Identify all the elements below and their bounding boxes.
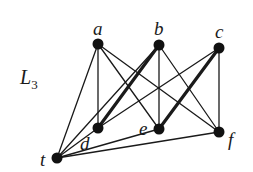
node-e	[154, 124, 165, 135]
graph-diagram: abcdeft L3	[0, 0, 253, 172]
graph-title-letter: L	[19, 66, 31, 88]
node-label-t: t	[40, 149, 46, 170]
node-label-b: b	[154, 18, 164, 39]
node-f	[214, 127, 225, 138]
graph-title-subscript: 3	[31, 77, 38, 92]
node-c	[214, 43, 225, 54]
node-label-e: e	[139, 118, 147, 139]
node-t	[52, 153, 63, 164]
node-b	[154, 40, 165, 51]
node-a	[93, 39, 104, 50]
node-label-a: a	[93, 18, 103, 39]
node-label-d: d	[80, 133, 90, 154]
node-d	[93, 123, 104, 134]
node-label-c: c	[215, 21, 224, 42]
